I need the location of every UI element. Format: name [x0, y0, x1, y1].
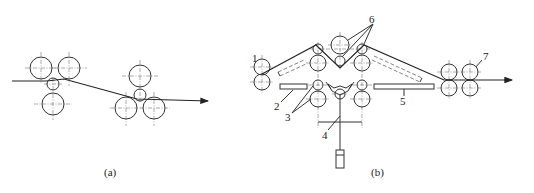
dashed-strip-positions: [278, 56, 422, 82]
guide-plate-right: [374, 84, 434, 89]
diagram-canvas: (a): [0, 0, 534, 193]
callout-6: 6: [369, 13, 375, 25]
upper-bending-rolls: [310, 32, 370, 70]
subfigure-a: (a): [12, 52, 208, 179]
actuator-cylinder: [336, 150, 344, 168]
roll: [140, 92, 170, 126]
caption-b: (b): [371, 166, 384, 179]
roll: [110, 92, 142, 126]
strip-path: [262, 45, 512, 80]
callout-4: 4: [322, 129, 328, 141]
roll: [122, 60, 158, 102]
strip-path: [12, 79, 208, 101]
subfigure-b: 1 2 3 4 5 6 7 (b): [250, 13, 512, 179]
guide-plate-left: [280, 84, 307, 89]
leader-lines: [281, 24, 482, 130]
roll-group-right: [110, 60, 170, 126]
callout-2: 2: [274, 100, 280, 112]
roll-group-left: [25, 52, 87, 120]
callout-7: 7: [483, 50, 489, 62]
roll: [34, 78, 72, 120]
callout-3: 3: [285, 111, 291, 123]
roll: [25, 52, 57, 84]
caption-a: (a): [104, 166, 117, 179]
callout-5: 5: [400, 95, 406, 107]
callout-1: 1: [252, 52, 258, 64]
